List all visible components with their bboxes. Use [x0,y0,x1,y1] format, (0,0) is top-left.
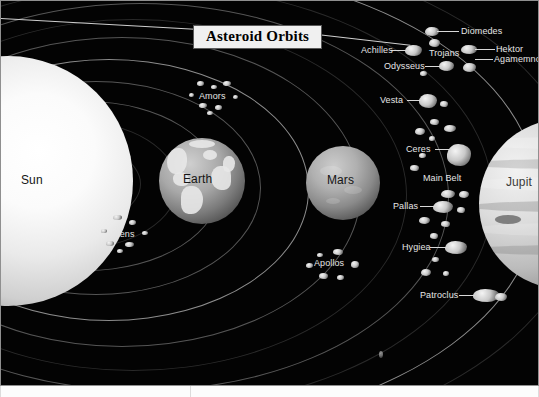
diomedes-label: Diomedes [461,26,502,36]
jupiter-great-red-spot [495,215,521,224]
sun-label: Sun [21,175,43,185]
ceres-leader [435,149,451,150]
asteroid-speck [211,85,217,89]
asteroid-speck [101,229,107,233]
asteroid-speck [441,190,455,198]
space-background: Sun Earth Mars [1,1,538,385]
asteroid-speck [410,165,419,171]
hygiea-leader [430,247,448,248]
asteroid-speck [129,220,136,225]
asteroid-speck [495,293,507,301]
diomedes-leader [437,31,459,32]
figure-frame: Sun Earth Mars [0,0,539,386]
asteroid-speck [430,119,439,125]
odysseus-leader [425,66,443,67]
asteroid-speck [223,81,231,86]
asteroid-speck [421,269,431,276]
jupiter-band [479,201,538,212]
agamemnon-leader [475,59,493,60]
vesta-label: Vesta [380,95,403,105]
hektor-label: Hektor [496,44,523,54]
asteroid-speck [117,249,123,253]
asteroid-speck [317,253,323,257]
asteroid-speck [125,242,134,247]
asteroid-speck [306,263,313,268]
patroclus-label: Patroclus [420,290,458,300]
strip-seam [0,386,1,397]
achilles-leader [391,50,409,51]
asteroid-speck [337,275,344,280]
asteroid-speck [420,71,427,76]
asteroid-speck [444,125,456,132]
asteroid-speck [106,241,114,246]
atens-label: Atens [111,229,135,239]
asteroid-speck [215,105,222,110]
mars-label: Mars [327,175,354,185]
asteroid-speck [379,351,383,358]
asteroid-speck [189,93,194,97]
asteroid-speck [459,191,469,198]
asteroid-speck [432,257,439,262]
mars-surface-mark [344,186,362,194]
mars-surface-mark [326,198,340,204]
jupiter-band [479,159,538,169]
asteroid-orbits-figure: Sun Earth Mars [0,0,539,397]
earth-landmass [167,148,187,174]
earth-landmass [181,186,203,214]
pallas-leader [420,206,436,207]
asteroid-speck [319,273,328,279]
asteroid-speck [415,128,425,135]
asteroid-speck [233,95,238,99]
asteroid-speck [430,233,438,239]
odysseus-label: Odysseus [384,61,425,71]
asteroid-speck [199,103,207,108]
patroclus-leader [459,295,475,296]
ceres-label: Ceres [406,144,431,154]
asteroid-pallas [433,201,453,213]
asteroid-speck [207,111,213,115]
hygiea-label: Hygiea [402,242,431,252]
asteroid-speck [440,101,448,107]
asteroid-ceres [447,144,471,166]
earth-landmass [223,156,235,172]
asteroid-agamemnon [463,63,476,72]
amors-label: Amors [199,91,226,101]
apollos-label: Apollos [314,258,344,268]
earth-label: Earth [183,174,212,184]
asteroid-speck [443,271,449,276]
agamemnon-label: Agamemnon [494,54,538,64]
asteroid-speck [429,39,440,47]
pallas-label: Pallas [393,201,418,211]
strip-seam [190,386,191,397]
bottom-white-strip [0,386,539,397]
hektor-leader [475,49,495,50]
asteroid-speck [429,136,435,141]
main-belt-label: Main Belt [423,173,461,183]
asteroid-speck [333,249,343,255]
asteroid-speck [113,215,122,220]
asteroid-vesta [419,94,437,108]
earth-landmass [203,150,217,160]
achilles-label: Achilles [361,45,393,55]
trojans-label: Trojans [429,48,459,58]
earth-landmass [189,140,215,148]
asteroid-speck [441,221,450,227]
jupiter-label: Jupit [506,177,532,187]
figure-title: Asteroid Orbits [193,25,322,49]
asteroid-speck [142,231,148,235]
asteroid-hygiea [445,241,467,254]
asteroid-speck [457,207,465,213]
jupiter-band [479,223,538,236]
asteroid-speck [351,261,359,268]
asteroid-speck [419,217,430,224]
asteroid-speck [197,81,204,86]
vesta-leader [407,100,421,101]
